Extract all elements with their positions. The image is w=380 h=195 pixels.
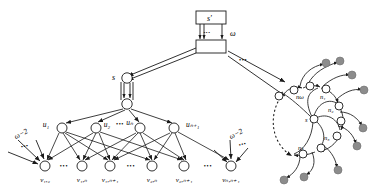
right-omega-dots: •••	[238, 140, 247, 148]
node-u2	[91, 123, 101, 133]
edge-un-v1n	[85, 133, 136, 160]
node-s-hub	[122, 99, 132, 109]
spiral-terminal-4	[360, 86, 368, 94]
node-un	[135, 123, 145, 133]
hub-to-u1	[66, 109, 123, 123]
edge-u1-v12	[47, 133, 59, 160]
spiral-node-center-s	[310, 115, 318, 123]
node-v1n-label: v₁,ₙ	[77, 176, 87, 184]
spiral-label-n2: n₂	[328, 106, 334, 113]
node-vnn1	[226, 161, 236, 171]
spiral-terminal-1	[322, 59, 330, 67]
left-omega-dots: •••	[20, 142, 29, 149]
edge-un1-v2n1	[175, 133, 186, 160]
node-u1	[57, 123, 67, 133]
node-un1	[169, 123, 179, 133]
spiral-arm-3	[316, 116, 340, 130]
source-label: s'	[207, 14, 212, 23]
node-v1n	[77, 161, 87, 171]
spiral-out-arc-4	[336, 89, 362, 100]
node-s-middle	[122, 73, 132, 83]
box-to-spiral-dots: •••	[239, 57, 247, 63]
spiral-terminal-3	[348, 71, 356, 79]
node-u1-label: u₁	[43, 120, 50, 129]
right-omega-arrow-1	[230, 140, 231, 159]
figure-canvas: s' ••• ω ••• s u₁ u₂ ••• uₙ uₙ₊₁	[0, 0, 380, 195]
v-dots-1: •••	[60, 163, 68, 169]
hub-to-un1	[131, 109, 172, 123]
spiral-node-n2	[335, 102, 343, 110]
diagram-svg: s' ••• ω ••• s u₁ u₂ ••• uₙ uₙ₊₁	[0, 0, 380, 195]
node-v1n1-label: v₁,ₙ₊₁	[102, 176, 119, 184]
spiral-terminal-6	[353, 142, 361, 150]
edge-un1-vnn1	[178, 132, 229, 160]
edge-u2-v1n	[83, 133, 96, 160]
node-u2-label: u₂	[104, 120, 111, 129]
middle-s-gadget	[121, 73, 133, 109]
spiral-label-nk: nₖ	[298, 144, 304, 151]
right-omega-minus-2-label: ω−2	[227, 126, 244, 141]
right-omega-arrow-3	[214, 150, 227, 162]
s-node-label: s	[112, 73, 115, 82]
left-omega-arrow-3	[8, 152, 38, 164]
spiral-node-mid-1	[306, 82, 314, 90]
node-un-label: uₙ	[126, 118, 134, 127]
spiral-label-n1: n₁	[320, 93, 326, 100]
box-to-s-edge-a	[128, 48, 196, 76]
spiral-node-n1	[322, 85, 330, 93]
u-to-v-edges	[47, 132, 229, 160]
left-omega-arrow-2	[36, 140, 44, 159]
box-to-s-edges	[128, 48, 196, 80]
spiral-out-arc-3	[323, 75, 350, 86]
left-omega-minus-2-label: ω−2	[12, 126, 29, 141]
spiral-terminal-7	[334, 166, 342, 174]
u-layer-dots: •••	[116, 121, 124, 127]
node-v12	[40, 161, 50, 171]
box-to-spiral-edges	[228, 51, 285, 96]
node-un1-label: uₙ₊₁	[186, 120, 200, 129]
spiral-label-n3: n₃	[324, 134, 330, 141]
source-box-dots: •••	[203, 30, 210, 35]
node-v2n-label: v₂,ₙ	[147, 176, 157, 184]
spiral-node-n3	[333, 132, 341, 140]
node-v12-label: v₁,₂	[40, 176, 50, 184]
v-dots-2: •••	[127, 163, 135, 169]
spiral-terminal-9	[280, 176, 288, 184]
spiral-terminal-5	[359, 124, 367, 132]
node-v2n	[147, 161, 157, 171]
right-omega-arrow-2	[236, 148, 248, 162]
spiral-out-arc-9	[286, 156, 300, 178]
omega-weight-label: ω	[230, 29, 236, 38]
spiral-dotted-arc	[273, 98, 292, 156]
spiral-arm-2	[314, 101, 338, 116]
v-dots-3: •••	[204, 163, 212, 169]
node-vnn1-label: vₙ,ₙ₊₁	[222, 176, 239, 184]
spiral-gadget	[273, 57, 368, 184]
node-v2n1	[179, 161, 189, 171]
spiral-arm-1	[308, 88, 318, 117]
box-to-spiral-edge-b	[228, 56, 285, 96]
spiral-label-nomega: nω	[296, 93, 304, 100]
spiral-node-mid-2	[337, 117, 345, 125]
node-v2n1-label: v₂,ₙ₊₁	[176, 176, 193, 184]
source-box-lower	[196, 40, 226, 53]
spiral-node-nk	[299, 150, 307, 158]
spiral-node-mid-3	[317, 144, 325, 152]
spiral-label-center-s: s	[305, 116, 308, 123]
spiral-node-entry	[275, 92, 283, 100]
box-to-spiral-edge-a	[228, 51, 285, 82]
edge-un-v2n1	[143, 133, 184, 160]
spiral-terminal-8	[300, 173, 308, 181]
node-v1n1	[105, 161, 115, 171]
box-to-s-edge-b	[128, 53, 196, 80]
spiral-terminal-2	[336, 57, 344, 65]
